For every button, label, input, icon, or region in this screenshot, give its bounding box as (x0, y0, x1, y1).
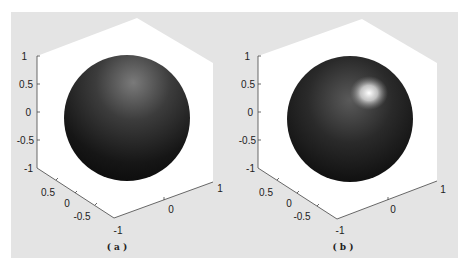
caption-b: ( b ) (332, 242, 353, 252)
y-tick-a-0: 0.5 (41, 187, 55, 198)
z-tick-b-3: -0.5 (239, 135, 257, 146)
sphere-a (64, 55, 190, 181)
x-tick-b-1: 0 (390, 204, 396, 215)
x-tick-b-0: -1 (336, 225, 345, 236)
y-tick-b-2: -0.5 (293, 211, 311, 222)
subplot-b: 1 0.5 0 -0.5 -1 0.5 0 -0.5 -1 0 1 ( b ) (239, 19, 446, 252)
x-tick-b-2: 1 (440, 184, 446, 195)
x-tick-a-0: -1 (114, 225, 123, 236)
z-tick-a-0: 1 (21, 51, 27, 62)
z-tick-b-4: -1 (246, 163, 255, 174)
y-tick-a-2: -0.5 (73, 211, 91, 222)
specular-highlight (350, 76, 388, 110)
y-tick-b-1: 0 (286, 198, 292, 209)
caption-a: ( a ) (107, 242, 128, 252)
y-tick-b-0: 0.5 (259, 187, 273, 198)
z-tick-a-1: 0.5 (19, 79, 33, 90)
x-tick-a-1: 0 (168, 204, 174, 215)
z-tick-b-1: 0.5 (241, 79, 255, 90)
x-tick-a-2: 1 (217, 183, 223, 194)
y-tick-a-1: 0 (64, 198, 70, 209)
z-tick-a-4: -1 (24, 163, 33, 174)
figure-svg: 1 0.5 0 -0.5 -1 0.5 0 -0.5 -1 0 1 ( a ) … (0, 0, 463, 266)
subplot-a: 1 0.5 0 -0.5 -1 0.5 0 -0.5 -1 0 1 ( a ) (17, 18, 223, 252)
z-tick-b-0: 1 (244, 51, 250, 62)
sphere-b (287, 56, 413, 182)
z-tick-b-2: 0 (247, 107, 253, 118)
z-tick-a-2: 0 (25, 107, 31, 118)
z-tick-a-3: -0.5 (17, 135, 35, 146)
